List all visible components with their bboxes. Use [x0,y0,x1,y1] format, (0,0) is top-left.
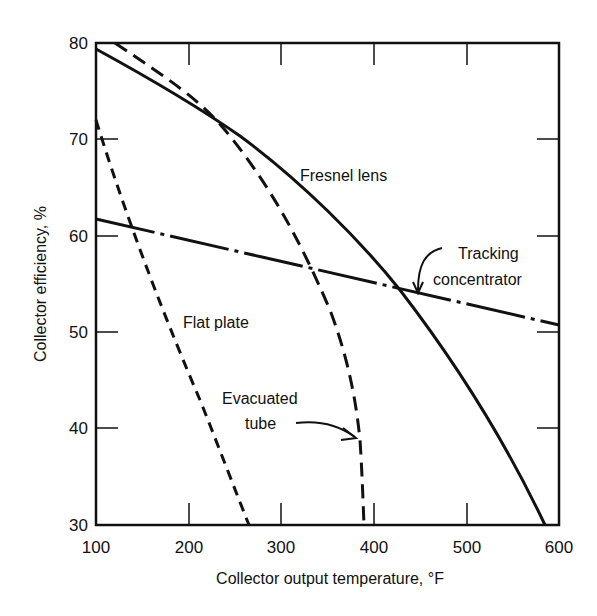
y-tick-labels: 30 40 50 60 70 80 [69,34,88,535]
label-evacuated-line1: Evacuated [222,390,298,407]
y-tick-label: 30 [69,516,88,535]
x-tick-label: 100 [82,538,110,557]
y-tick-label: 80 [69,34,88,53]
y-axis-title: Collector efficiency, % [32,206,49,362]
x-tick-label: 500 [453,538,481,557]
y-tick-label: 40 [69,419,88,438]
y-tick-label: 50 [69,323,88,342]
label-tracking-line2: concentrator [433,271,523,288]
y-tick-label: 70 [69,130,88,149]
x-tick-label: 200 [175,538,203,557]
x-axis-title: Collector output temperature, °F [216,570,444,587]
x-tick-labels: 100 200 300 400 500 600 [82,538,573,557]
label-flat-plate: Flat plate [183,314,249,331]
chart: 30 40 50 60 70 80 100 200 300 400 500 60… [0,0,597,616]
x-tick-label: 600 [545,538,573,557]
label-fresnel-lens: Fresnel lens [300,167,387,184]
x-tick-label: 300 [267,538,295,557]
x-tick-label: 400 [360,538,388,557]
y-tick-label: 60 [69,227,88,246]
x-ticks [189,43,467,525]
label-tracking-line1: Tracking [458,245,519,262]
label-evacuated-line2: tube [245,415,276,432]
